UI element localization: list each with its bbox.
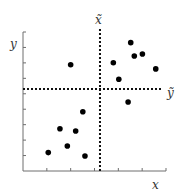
x-tilde-label: x̃ xyxy=(95,13,102,27)
data-point xyxy=(125,99,131,105)
x-axis-label: x xyxy=(152,178,159,192)
y-axis-label: y xyxy=(9,37,17,51)
data-point xyxy=(45,150,51,156)
data-point xyxy=(82,153,88,159)
data-point xyxy=(68,62,74,68)
data-point xyxy=(116,76,122,82)
data-point xyxy=(80,109,86,115)
data-point xyxy=(73,128,79,134)
data-point xyxy=(153,66,159,72)
rotated-axes xyxy=(23,29,161,171)
data-points xyxy=(45,40,158,159)
data-point xyxy=(57,126,63,132)
data-point xyxy=(111,60,117,66)
data-point xyxy=(128,40,134,46)
data-point xyxy=(140,51,146,57)
data-point xyxy=(132,53,138,59)
data-point xyxy=(65,143,71,149)
y-tilde-label: ỹ xyxy=(166,86,174,100)
scatter-diagram: y x x̃ ỹ xyxy=(0,0,184,195)
